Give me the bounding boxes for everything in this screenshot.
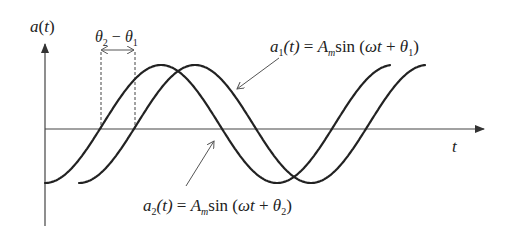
curve-a2-equation: a2(t) = Amsin (ωt + θ2) — [143, 196, 292, 217]
curve-a2-pointer — [186, 141, 214, 186]
curve-a1 — [45, 65, 390, 183]
curve-a1-equation: a1(t) = Amsin (ωt + θ1) — [270, 37, 419, 58]
time-axis-label: t — [452, 137, 458, 156]
curve-a1-pointer — [237, 58, 279, 89]
phase-shift-diagram: a(t) t θ2 − θ1 a1(t) = Amsin (ωt + θ1) a… — [0, 0, 508, 239]
y-axis-label: a(t) — [30, 17, 55, 36]
phase-difference-label: θ2 − θ1 — [95, 28, 138, 48]
